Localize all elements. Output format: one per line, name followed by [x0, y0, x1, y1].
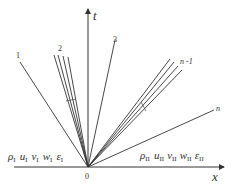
x-axis-label: x	[211, 169, 218, 184]
svg-text:ρIIuIIvIIwIIεII: ρIIuIIvIIwIIεII	[139, 149, 204, 163]
label-n-1: n -1	[180, 57, 193, 66]
riemann-wave-diagram: 1 2 3 n -1 n t x 0 ρIuIvIwIεI ρIIuIIvIIw…	[0, 0, 236, 186]
characteristic-3	[88, 40, 115, 167]
fan-n-1-ray	[88, 62, 174, 167]
origin-label: 0	[85, 172, 89, 181]
label-2: 2	[58, 44, 62, 53]
fan-n-1-ray	[88, 66, 178, 167]
right-state-label: ρIIuIIvIIwIIεII	[139, 149, 204, 163]
left-state-label: ρIuIvIwIεI	[7, 150, 64, 164]
label-3: 3	[113, 35, 117, 44]
svg-text:ρIuIvIwIεI: ρIuIvIwIεI	[7, 150, 64, 164]
t-axis-label: t	[93, 8, 97, 23]
characteristic-1	[20, 62, 88, 167]
label-n: n	[216, 104, 220, 113]
fan-2-ray	[58, 55, 88, 167]
fan-2-ray	[63, 56, 88, 167]
label-1: 1	[16, 51, 20, 60]
